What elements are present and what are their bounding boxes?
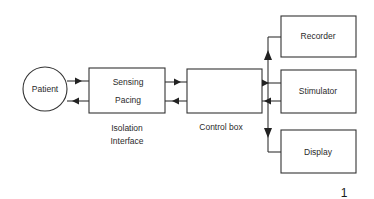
stimulator-node: Stimulator (281, 70, 356, 113)
isolation-control-connectors (165, 79, 187, 105)
patient-label: Patient (32, 84, 59, 94)
figure-number: 1 (341, 186, 348, 199)
pacing-label: Pacing (115, 95, 141, 105)
output-bus (262, 37, 281, 152)
recorder-label: Recorder (301, 31, 336, 41)
arrow-right-icon (174, 79, 181, 86)
arrow-down-icon (264, 128, 272, 138)
isolation-interface-box (89, 68, 165, 113)
patient-isolation-connectors (67, 78, 89, 105)
control-box-node: Control box (187, 69, 262, 132)
stimulator-label: Stimulator (299, 86, 337, 96)
control-box-caption: Control box (199, 122, 243, 132)
recorder-node: Recorder (281, 16, 356, 57)
control-box (187, 69, 262, 113)
display-label: Display (304, 147, 333, 157)
display-node: Display (281, 130, 356, 173)
sensing-label: Sensing (113, 77, 144, 87)
arrow-right-icon (75, 78, 82, 85)
arrow-up-icon (264, 50, 272, 60)
patient-node: Patient (23, 67, 67, 111)
isolation-interface-node: Sensing Pacing Isolation Interface (89, 68, 165, 146)
block-diagram: Patient Sensing Pacing Isolation Interfa… (0, 0, 374, 199)
isolation-caption: Isolation (111, 123, 143, 133)
arrow-left-icon (172, 98, 179, 105)
arrow-left-icon (72, 98, 79, 105)
interface-caption: Interface (110, 136, 143, 146)
